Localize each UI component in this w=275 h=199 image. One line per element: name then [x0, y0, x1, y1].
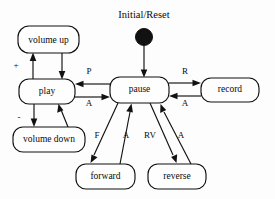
initial-state-dot-icon [136, 29, 153, 46]
state-diagram: volume up play volume down pause record … [0, 0, 275, 199]
transition-pause-to-play [75, 81, 110, 88]
arrow-head [75, 81, 84, 88]
edge-label-volume-up-plus: + [13, 60, 18, 70]
transition-play-to-volume-down [31, 104, 38, 127]
edge-label-volume-down-minus: - [18, 112, 21, 122]
state-volume-up[interactable]: volume up [18, 26, 79, 53]
arrow-head [126, 104, 133, 113]
state-volume-down[interactable]: volume down [13, 127, 85, 152]
state-label-volume-down: volume down [23, 134, 75, 144]
transition-play-to-pause [75, 94, 110, 101]
initial-state-marker: Initial/Reset [118, 9, 169, 45]
arrow-head [57, 104, 63, 113]
edge-label-a-play: A [86, 98, 93, 108]
state-label-pause: pause [129, 84, 151, 94]
edge-label-r: R [182, 66, 188, 76]
arrow-head [193, 80, 202, 87]
transition-initial-to-pause [141, 46, 148, 78]
arrow-head [59, 71, 66, 80]
edge-label-f: F [94, 130, 99, 140]
transition-pause-to-record [169, 80, 201, 87]
state-label-forward: forward [90, 171, 120, 181]
arrow-head [31, 119, 38, 128]
arrow-head [91, 155, 98, 164]
arrow-head [141, 70, 148, 78]
transition-play-to-volume-up [30, 53, 37, 80]
edge-label-rv: RV [144, 130, 156, 140]
arrow-head [160, 104, 166, 113]
state-label-play: play [39, 86, 56, 96]
transition-volume-down-to-play [57, 104, 68, 127]
state-pause[interactable]: pause [110, 77, 169, 103]
edge-label-a-reverse: A [178, 130, 185, 140]
edge-label-p: P [86, 66, 91, 76]
state-record[interactable]: record [201, 78, 259, 102]
edge-label-a-record: A [182, 98, 189, 108]
state-play[interactable]: play [19, 79, 75, 104]
state-label-volume-up: volume up [28, 35, 69, 45]
arrow-head [30, 53, 37, 62]
arrow-head [169, 93, 178, 100]
initial-reset-label: Initial/Reset [118, 9, 169, 20]
edge-line [94, 103, 118, 155]
state-forward[interactable]: forward [76, 164, 135, 189]
state-reverse[interactable]: reverse [148, 164, 206, 189]
arrow-head [171, 154, 177, 163]
state-label-reverse: reverse [163, 171, 190, 181]
transition-volume-up-to-play [59, 53, 66, 80]
arrow-head [102, 94, 111, 101]
state-label-record: record [218, 84, 243, 94]
edge-label-a-forward: A [123, 130, 130, 140]
edge-line [62, 111, 69, 127]
state-diagram-canvas: volume up play volume down pause record … [0, 0, 275, 199]
